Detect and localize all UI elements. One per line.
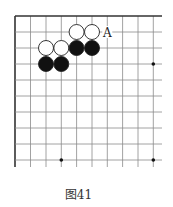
white-stone [69, 25, 84, 40]
go-board: A [0, 0, 173, 180]
white-stone [85, 25, 100, 40]
black-stone [39, 57, 54, 72]
star-point [152, 158, 156, 162]
black-stone [54, 57, 69, 72]
black-stone [85, 41, 100, 56]
figure-caption: 图41 [0, 185, 157, 202]
black-stone [69, 41, 84, 56]
star-point [60, 158, 64, 162]
star-point [152, 62, 156, 66]
point-label: A [102, 26, 112, 40]
white-stone [39, 41, 54, 56]
white-stone [54, 41, 69, 56]
